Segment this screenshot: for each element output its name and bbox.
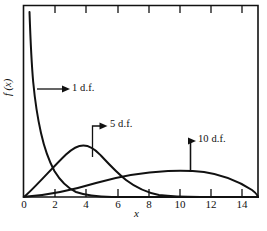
curve-label-5df: 5 d.f. (110, 118, 132, 129)
x-tick-label: 2 (46, 198, 64, 210)
x-axis-label: x (134, 207, 139, 219)
x-tick-label: 10 (171, 198, 189, 210)
arrow-5df (93, 123, 108, 157)
plot-canvas (0, 0, 267, 231)
chi-square-density-figure: 0 2 4 6 8 10 12 14 f (x) x 1 d.f. 5 d.f.… (0, 0, 267, 231)
y-axis-label: f (x) (2, 79, 13, 96)
curve-label-10df: 10 d.f. (198, 133, 226, 144)
curve-1df (30, 12, 259, 197)
curve-10df (25, 171, 259, 197)
x-tick-label: 4 (77, 198, 95, 210)
arrow-10df (188, 138, 196, 172)
x-tick-label: 6 (109, 198, 127, 210)
plot-frame (24, 6, 259, 198)
x-tick-label: 12 (202, 198, 220, 210)
x-tick-label: 8 (140, 198, 158, 210)
curve-5df (25, 145, 259, 197)
top-tick-marks (55, 6, 242, 14)
x-tick-label: 14 (233, 198, 251, 210)
x-tick-label: 0 (15, 198, 33, 210)
curve-label-1df: 1 d.f. (72, 82, 94, 93)
arrow-1df (37, 86, 70, 93)
